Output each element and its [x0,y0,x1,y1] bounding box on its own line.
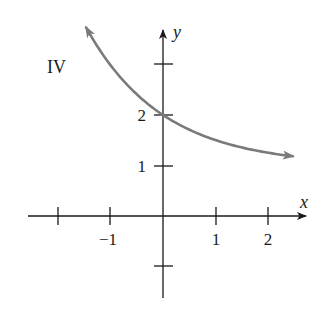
x-tick-label-neg1: −1 [99,230,117,249]
x-tick-label-1: 1 [212,230,221,249]
x-tick-label-2: 2 [264,230,273,249]
y-tick-label-2: 2 [138,106,147,125]
x-axis-label: x [299,192,308,212]
y-axis-label: y [171,22,181,42]
y-tick-label-1: 1 [138,157,147,176]
function-curve [86,28,293,157]
function-graph: −1 1 2 1 2 x y IV [0,0,331,312]
panel-label: IV [47,57,66,77]
